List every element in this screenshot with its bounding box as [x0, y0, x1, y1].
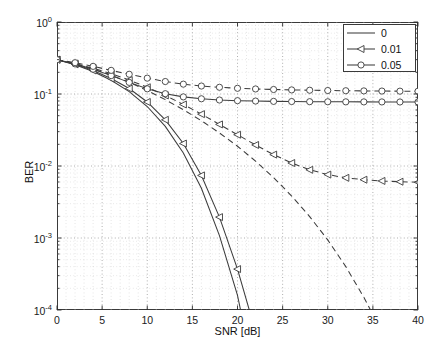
legend-item: 0: [344, 25, 415, 41]
legend-label: 0.05: [381, 60, 401, 71]
legend-sample-circle: [344, 57, 378, 73]
x-axis-title: SNR [dB]: [57, 325, 418, 337]
x-tick-label: 5: [99, 315, 105, 326]
x-tick-label: 0: [54, 315, 60, 326]
y-tick-label: 100: [36, 16, 52, 28]
x-tick-label: 30: [322, 315, 334, 326]
figure: 10010-110-210-310-4 0510152025303540 SNR…: [0, 0, 439, 357]
x-tick-label: 35: [367, 315, 379, 326]
legend: 00.010.05: [343, 24, 416, 72]
y-axis-title: BER: [23, 137, 35, 207]
legend-item: 0.05: [344, 57, 415, 73]
x-tick-label: 20: [232, 315, 244, 326]
x-tick-label: 40: [412, 315, 424, 326]
legend-label: 0: [381, 28, 387, 39]
legend-item: 0.01: [344, 41, 415, 57]
legend-sample-left-triangle: [344, 41, 378, 57]
y-tick-label: 10-3: [34, 232, 52, 244]
x-tick-label: 25: [277, 315, 289, 326]
legend-label: 0.01: [381, 44, 401, 55]
x-tick-label: 10: [141, 315, 153, 326]
y-tick-label: 10-4: [34, 304, 52, 316]
y-tick-label: 10-2: [34, 160, 52, 172]
x-tick-label: 15: [187, 315, 199, 326]
y-tick-label: 10-1: [34, 88, 52, 100]
legend-sample-none: [344, 25, 378, 41]
